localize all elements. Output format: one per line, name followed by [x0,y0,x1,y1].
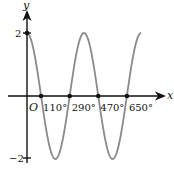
y-tick-label-neg2: −2 [9,153,24,164]
zero-point [125,94,130,99]
origin-label: O [29,101,38,114]
x-tick-label: 290° [72,102,96,113]
x-tick-label: 650° [129,102,153,113]
y-tick-label-2: 2 [15,28,21,39]
y-max-point [25,31,30,36]
x-tick-labels: 110°290°470°650° [43,102,153,113]
y-axis-label: y [22,0,30,12]
x-tick-label: 110° [43,102,67,113]
x-tick-label: 470° [100,102,124,113]
zero-point [96,94,101,99]
zero-point [39,94,44,99]
zero-point [67,94,72,99]
sine-graph: y x O 2 −2 110°290°470°650° [0,0,174,173]
axes [8,10,166,163]
x-axis-label: x [167,89,174,102]
